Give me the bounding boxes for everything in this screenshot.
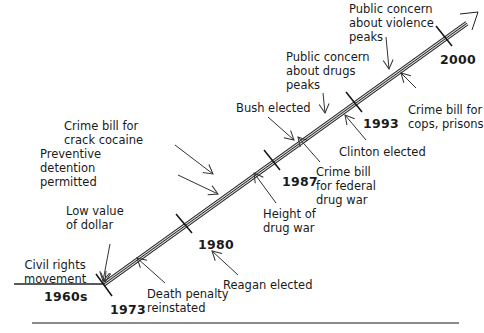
event-civil-rights: Civil rights movement bbox=[24, 258, 86, 286]
event-low-dollar: Low value of dollar bbox=[66, 204, 124, 232]
event-reagan-elected: Reagan elected bbox=[223, 278, 312, 292]
year-label-2000: 2000 bbox=[440, 52, 476, 67]
event-death-penalty: Death penalty reinstated bbox=[147, 287, 229, 315]
event-crack-cocaine-bill: Crime bill for crack cocaine bbox=[64, 119, 143, 147]
event-clinton-elected: Clinton elected bbox=[339, 145, 426, 159]
event-drug-concern-peaks: Public concern about drugs peaks bbox=[286, 50, 370, 92]
event-bush-elected: Bush elected bbox=[236, 101, 311, 115]
bottom-divider bbox=[32, 322, 459, 324]
year-label-1973: 1973 bbox=[110, 302, 146, 317]
year-label-1987: 1987 bbox=[282, 174, 318, 189]
event-cops-prisons-bill: Crime bill for cops, prisons bbox=[408, 103, 484, 131]
event-preventive-detention: Preventive detention permitted bbox=[40, 147, 101, 189]
year-label-1980: 1980 bbox=[198, 237, 234, 252]
year-label-1993: 1993 bbox=[363, 116, 399, 131]
event-height-drug-war: Height of drug war bbox=[263, 207, 316, 235]
year-label-1960s: 1960s bbox=[44, 289, 88, 304]
event-violence-concern-peaks: Public concern about violence peaks bbox=[349, 2, 434, 44]
event-federal-drug-war-bill: Crime bill for federal drug war bbox=[316, 165, 376, 207]
